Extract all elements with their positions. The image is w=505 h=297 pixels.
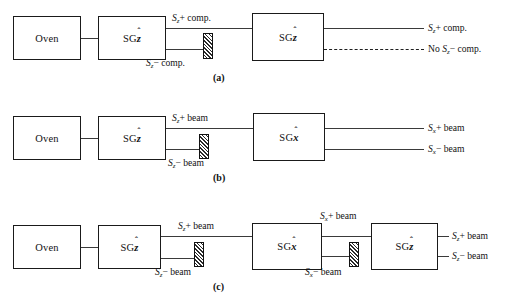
panel-c-beam-sx-plus [322, 236, 371, 237]
beam-suffix: − beam [163, 266, 192, 277]
output-suffix: + beam [436, 122, 465, 133]
z-hat-icon: zˆ [137, 33, 141, 44]
panel-b-output-label-sx-minus: Sx− beam [428, 144, 464, 156]
panel-a-output-label-no-sz-minus: No Sz− comp. [428, 44, 481, 56]
hat-mark: ˆ [293, 26, 296, 35]
panel-b-caption: (b) [213, 172, 225, 183]
panel-a-oven-box: Oven [13, 16, 81, 60]
z-hat-icon: zˆ [137, 133, 141, 144]
beam-suffix: + beam [328, 210, 357, 221]
panel-a-sg-z-box-2: SGzˆ [252, 13, 324, 61]
sg-text: SG [279, 32, 293, 43]
panel-b-beam-blocker-sz-minus [199, 134, 209, 159]
panel-c-beam-blocker-sx-minus [349, 242, 359, 267]
sg-text: SG [120, 242, 134, 253]
panel-b-output-label-sx-plus: Sx+ beam [428, 123, 464, 135]
sg-text: SG [279, 132, 293, 143]
output-suffix: + beam [460, 230, 489, 241]
panel-a-beam-sz-minus [166, 49, 203, 50]
beam-suffix: + beam [186, 220, 215, 231]
panel-a-sg-z-box-1: SGzˆ [98, 16, 166, 60]
panel-a-beam-label-sz-plus: Sz+ comp. [172, 13, 211, 25]
panel-b-link-oven-to-sgz [81, 138, 98, 139]
panel-c-beam-label-sx-plus: Sx+ beam [320, 211, 356, 223]
panel-c-oven-box: Oven [13, 225, 81, 269]
panel-b-beam-label-sz-plus: Sz+ beam [172, 113, 208, 125]
oven-label: Oven [35, 33, 59, 44]
beam-suffix: + comp. [180, 12, 212, 23]
oven-label: Oven [35, 133, 59, 144]
panel-a-caption: (a) [213, 72, 225, 83]
panel-c-sg-z-box-1: SGzˆ [98, 225, 161, 269]
hat-mark: ˆ [137, 27, 140, 36]
panel-c-sg-z-box-2: SGzˆ [371, 223, 438, 270]
panel-c-beam-blocker-sz-minus [194, 242, 204, 267]
output-suffix: − beam [460, 250, 489, 261]
stern-gerlach-figure: Oven SGzˆ Sz+ comp. Sz− comp. SGzˆ Sz+ c… [0, 0, 505, 297]
panel-b-output-line-sx-plus [325, 128, 424, 129]
sg-z-label: SGzˆ [123, 133, 141, 144]
output-suffix: − comp. [450, 43, 482, 54]
sg-x-label: SGxˆ [277, 241, 296, 252]
sg-z-label: SGzˆ [123, 33, 141, 44]
beam-suffix: + beam [180, 112, 209, 123]
panel-b-sg-x-box: SGxˆ [253, 113, 325, 161]
panel-c-beam-sx-minus [322, 256, 349, 257]
panel-b-beam-sz-plus [166, 128, 253, 129]
sg-text: SG [277, 241, 291, 252]
panel-c-output-label-sz-minus: Sz− beam [452, 251, 488, 263]
panel-b-beam-label-sz-minus: Sz− beam [168, 158, 204, 170]
oven-label: Oven [35, 242, 59, 253]
sg-text: SG [123, 33, 137, 44]
beam-suffix: − beam [313, 266, 342, 277]
panel-c-output-line-sz-minus [438, 256, 449, 257]
sg-z-label: SGzˆ [279, 32, 297, 43]
panel-b-oven-box: Oven [13, 116, 81, 160]
output-suffix: + comp. [436, 22, 468, 33]
panel-a-output-label-sz-plus: Sz+ comp. [428, 23, 467, 35]
panel-a-beam-sz-plus [166, 28, 252, 29]
hat-mark: ˆ [135, 236, 138, 245]
sg-text: SG [123, 133, 137, 144]
hat-mark: ˆ [294, 126, 297, 135]
panel-c-beam-sz-minus [161, 258, 194, 259]
z-hat-icon: zˆ [134, 242, 138, 253]
x-hat-icon: xˆ [293, 132, 298, 143]
panel-a-beam-label-sz-minus: Sz− comp. [146, 58, 185, 70]
sg-z-label: SGzˆ [395, 241, 413, 252]
panel-a-output-line-sz-plus [324, 28, 424, 29]
hat-mark: ˆ [410, 236, 413, 245]
no-prefix: No [428, 43, 442, 54]
panel-a-output-line-no-sz-minus [324, 49, 424, 50]
panel-c-beam-label-sz-plus: Sz+ beam [178, 221, 214, 233]
panel-c-sg-x-box: SGxˆ [252, 223, 322, 270]
panel-c-link-oven-to-sgz [81, 247, 98, 248]
sg-z-label: SGzˆ [120, 242, 138, 253]
panel-c-output-line-sz-plus [438, 236, 449, 237]
panel-b-beam-sz-minus [166, 149, 199, 150]
beam-suffix: − comp. [154, 57, 186, 68]
panel-b-output-line-sx-minus [325, 149, 424, 150]
x-hat-icon: xˆ [291, 241, 296, 252]
panel-a-beam-blocker-sz-minus [203, 33, 213, 59]
hat-mark: ˆ [137, 127, 140, 136]
z-hat-icon: zˆ [293, 32, 297, 43]
sg-text: SG [395, 241, 409, 252]
panel-c-caption: (c) [213, 281, 224, 292]
z-hat-icon: zˆ [409, 241, 413, 252]
panel-b-sg-z-box: SGzˆ [98, 116, 166, 160]
panel-c-output-label-sz-plus: Sz+ beam [452, 231, 488, 243]
panel-c-beam-label-sz-minus: Sz− beam [155, 267, 191, 279]
sg-x-label: SGxˆ [279, 132, 298, 143]
output-suffix: − beam [436, 143, 465, 154]
panel-c-beam-label-sx-minus: Sx− beam [305, 267, 341, 279]
hat-mark: ˆ [292, 236, 295, 245]
panel-c-beam-sz-plus [161, 236, 252, 237]
panel-a-link-oven-to-sgz [81, 38, 98, 39]
